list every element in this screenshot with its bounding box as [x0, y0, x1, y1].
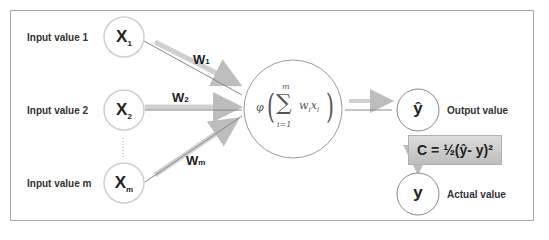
activation-formula: φ ( m ∑ i=1 wixi ): [252, 84, 336, 134]
input-node-1-text: X1: [108, 27, 140, 48]
weight-label-1: W1: [193, 52, 210, 67]
weight-label-m: Wm: [186, 153, 205, 168]
input-label-2: Input value 2: [27, 105, 88, 116]
input-node-m-text: Xm: [108, 173, 140, 194]
output-label: Output value: [447, 105, 508, 116]
actual-node-text: y: [404, 183, 432, 203]
sum-symbol: ∑: [276, 90, 292, 115]
actual-label: Actual value: [447, 189, 506, 200]
sum-lower: i=1: [277, 120, 291, 129]
paren-right: ): [326, 86, 334, 126]
paren-left: (: [267, 86, 275, 126]
input-label-1: Input value 1: [27, 32, 88, 43]
cost-function-box: C = ½(ŷ- y)²: [408, 135, 502, 165]
input-node-2-text: X2: [108, 100, 140, 121]
arrow-w1-line: [144, 41, 242, 95]
sum-term: wixi: [299, 99, 319, 114]
phi-symbol: φ: [256, 101, 264, 114]
arrow-wm-line: [145, 116, 242, 182]
input-label-m: Input value m: [27, 178, 91, 189]
weight-label-2: W2: [172, 90, 189, 105]
output-node-text: ŷ: [404, 99, 432, 119]
